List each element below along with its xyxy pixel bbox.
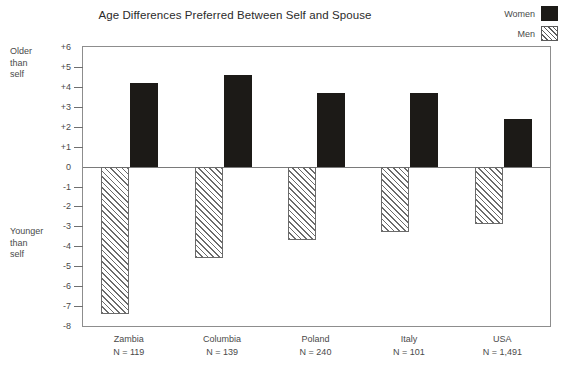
- x-axis-category-poland: PolandN = 240: [271, 333, 361, 359]
- axis-note-older-line-2: than: [10, 58, 56, 70]
- y-axis-tick-mark: [74, 147, 83, 148]
- y-axis-tick-mark: [74, 67, 83, 68]
- x-axis-category-count: N = 240: [271, 346, 361, 359]
- y-axis-tick-label: +2: [61, 122, 71, 132]
- axis-note-older-line-1: Older: [10, 46, 56, 58]
- axis-note-younger-line-3: self: [10, 249, 56, 261]
- y-axis-tick-label: -6: [63, 281, 71, 291]
- x-axis-category-label: Columbia: [177, 333, 267, 346]
- y-axis-tick-label: -8: [63, 321, 71, 331]
- axis-note-younger-line-2: than: [10, 238, 56, 250]
- diagonal-hatch-square-icon: [541, 26, 558, 41]
- x-axis-category-label: Poland: [271, 333, 361, 346]
- bar-usa-men: [475, 167, 503, 225]
- y-axis-tick-label: -3: [63, 221, 71, 231]
- solid-dark-square-icon: [541, 6, 558, 21]
- y-axis-tick-mark: [74, 87, 83, 88]
- x-axis-category-italy: ItalyN = 101: [364, 333, 454, 359]
- y-axis-tick-mark: [74, 246, 83, 247]
- y-axis-tick-label: +5: [61, 62, 71, 72]
- y-axis-tick-label: -2: [63, 201, 71, 211]
- bar-columbia-women: [224, 75, 252, 167]
- chart-legend: Women Men: [474, 6, 558, 46]
- legend-item-women: Women: [474, 6, 558, 21]
- x-axis-category-label: USA: [457, 333, 547, 346]
- x-axis-category-columbia: ColumbiaN = 139: [177, 333, 267, 359]
- bar-poland-men: [288, 167, 316, 241]
- bar-italy-men: [381, 167, 409, 233]
- x-axis-category-usa: USAN = 1,491: [457, 333, 547, 359]
- y-axis-tick-mark: [74, 206, 83, 207]
- y-axis-tick-mark: [74, 226, 83, 227]
- chart-title: Age Differences Preferred Between Self a…: [0, 9, 470, 21]
- plot-area: +6+5+4+3+2+10-1-2-3-4-5-6-7-8: [82, 46, 551, 327]
- y-axis-tick-label: 0: [66, 162, 71, 172]
- x-axis-category-count: N = 101: [364, 346, 454, 359]
- x-axis-category-zambia: ZambiaN = 119: [84, 333, 174, 359]
- plot-inner: +6+5+4+3+2+10-1-2-3-4-5-6-7-8: [83, 47, 550, 326]
- bar-italy-women: [410, 93, 438, 167]
- y-axis-tick-mark: [74, 127, 83, 128]
- y-axis-tick-label: -5: [63, 261, 71, 271]
- legend-label-men: Men: [517, 29, 535, 39]
- axis-note-older-line-3: self: [10, 69, 56, 81]
- x-axis-category-label: Zambia: [84, 333, 174, 346]
- y-axis-tick-mark: [74, 266, 83, 267]
- y-axis-tick-mark: [74, 306, 83, 307]
- x-axis-category-count: N = 1,491: [457, 346, 547, 359]
- y-axis-tick-mark: [74, 187, 83, 188]
- x-axis-category-count: N = 119: [84, 346, 174, 359]
- legend-label-women: Women: [504, 9, 535, 19]
- axis-note-older: Older than self: [10, 46, 56, 81]
- axis-note-younger: Younger than self: [10, 226, 56, 261]
- y-axis-tick-label: +4: [61, 82, 71, 92]
- bar-usa-women: [504, 119, 532, 167]
- y-axis-tick-mark: [74, 107, 83, 108]
- x-axis-category-count: N = 139: [177, 346, 267, 359]
- bar-zambia-men: [101, 167, 129, 314]
- axis-note-younger-line-1: Younger: [10, 226, 56, 238]
- y-axis-tick-mark: [74, 286, 83, 287]
- x-axis-category-label: Italy: [364, 333, 454, 346]
- y-axis-tick-label: -1: [63, 182, 71, 192]
- y-axis-tick-label: +3: [61, 102, 71, 112]
- bar-zambia-women: [130, 83, 158, 167]
- y-axis-tick-label: -4: [63, 241, 71, 251]
- y-axis-tick-label: +6: [61, 42, 71, 52]
- bar-columbia-men: [195, 167, 223, 259]
- legend-item-men: Men: [474, 26, 558, 41]
- y-axis-tick-label: +1: [61, 142, 71, 152]
- y-axis-tick-label: -7: [63, 301, 71, 311]
- bar-poland-women: [317, 93, 345, 167]
